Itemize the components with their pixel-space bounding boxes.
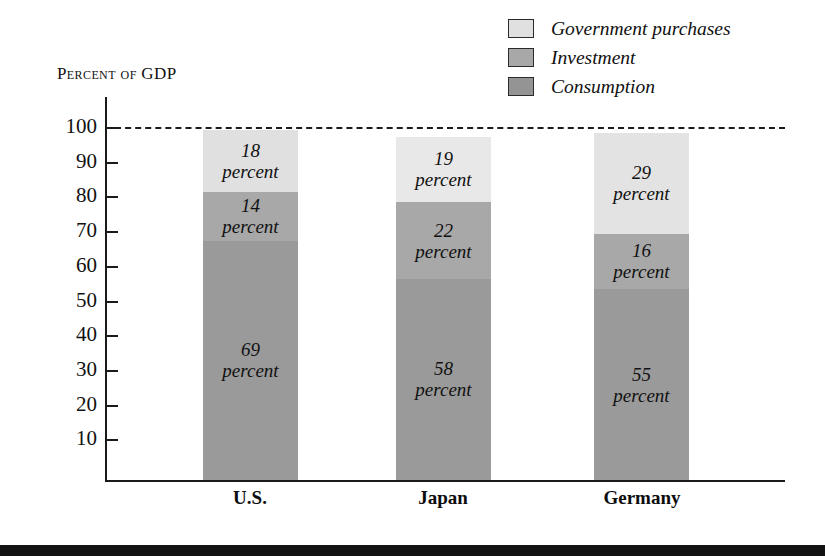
- y-tick-label-60: 60: [76, 254, 97, 276]
- y-tick-label-70: 70: [76, 219, 97, 241]
- bar-japan-gov-unit: percent: [415, 169, 471, 190]
- y-tick-label-10: 10: [76, 427, 97, 449]
- bar-us-inv-value: 14: [241, 195, 260, 216]
- legend-swatch-government-purchases: [508, 19, 534, 38]
- y-tick-label-30: 30: [76, 358, 97, 380]
- bar-germany: 29 percent 16 percent 55 percent: [594, 133, 689, 480]
- page-footer-rule: [0, 545, 825, 556]
- category-label-us: U.S.: [160, 487, 340, 509]
- bar-germany-con-unit: percent: [613, 385, 669, 406]
- bar-japan-inv-unit: percent: [415, 241, 471, 262]
- bar-japan-segment-investment: 22 percent: [396, 202, 491, 278]
- bar-germany-segment-investment: 16 percent: [594, 234, 689, 290]
- y-tick-label-90: 90: [76, 150, 97, 172]
- plot-area: 100 90 80 70 60 50 40 30: [105, 97, 785, 482]
- bar-us-segment-investment: 14 percent: [203, 192, 298, 241]
- y-axis-title: Percent of GDP: [57, 64, 177, 84]
- bar-japan-con-unit: percent: [415, 379, 471, 400]
- legend-item-investment: Investment: [508, 43, 818, 72]
- bar-germany-inv-unit: percent: [613, 261, 669, 282]
- legend-label-investment: Investment: [551, 48, 635, 68]
- bar-us-con-unit: percent: [222, 360, 278, 381]
- bar-germany-gov-value: 29: [632, 162, 651, 183]
- legend-swatch-investment: [508, 48, 534, 67]
- bar-germany-con-value: 55: [632, 364, 651, 385]
- bar-germany-gov-unit: percent: [613, 183, 669, 204]
- bar-us-inv-unit: percent: [222, 216, 278, 237]
- bar-us-segment-government-purchases: 18 percent: [203, 130, 298, 193]
- bar-japan-gov-value: 19: [434, 148, 453, 169]
- chart-figure: Government purchases Investment Consumpt…: [0, 0, 825, 559]
- bar-us: 18 percent 14 percent 69 percent: [203, 130, 298, 480]
- legend-item-government-purchases: Government purchases: [508, 14, 818, 43]
- bar-japan-con-value: 58: [434, 358, 453, 379]
- bar-us-segment-consumption: 69 percent: [203, 241, 298, 480]
- y-tick-label-80: 80: [76, 184, 97, 206]
- legend-label-government-purchases: Government purchases: [551, 19, 731, 39]
- bar-us-con-value: 69: [241, 339, 260, 360]
- bar-japan-inv-value: 22: [434, 220, 453, 241]
- bar-germany-inv-value: 16: [632, 240, 651, 261]
- y-tick-label-100: 100: [66, 115, 98, 137]
- bar-japan: 19 percent 22 percent 58 percent: [396, 137, 491, 480]
- legend-label-consumption: Consumption: [551, 77, 655, 97]
- x-axis-line: [105, 480, 785, 482]
- bar-us-gov-unit: percent: [222, 161, 278, 182]
- bar-germany-segment-government-purchases: 29 percent: [594, 133, 689, 234]
- bar-japan-segment-consumption: 58 percent: [396, 279, 491, 480]
- category-label-japan: Japan: [353, 487, 533, 509]
- legend-swatch-consumption: [508, 77, 534, 96]
- chart-legend: Government purchases Investment Consumpt…: [508, 14, 818, 101]
- y-tick-label-40: 40: [76, 323, 97, 345]
- bar-germany-segment-consumption: 55 percent: [594, 289, 689, 480]
- bar-japan-segment-government-purchases: 19 percent: [396, 137, 491, 203]
- bar-us-gov-value: 18: [241, 140, 260, 161]
- category-label-germany: Germany: [552, 487, 732, 509]
- y-tick-label-50: 50: [76, 289, 97, 311]
- y-tick-label-20: 20: [76, 393, 97, 415]
- y-axis-line: [105, 97, 107, 482]
